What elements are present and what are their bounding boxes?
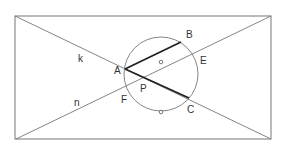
chord-ac [125, 69, 189, 98]
label-n: n [74, 97, 80, 108]
label-f: F [121, 94, 127, 105]
label-e: E [200, 55, 207, 66]
chord-ab [125, 42, 181, 69]
geometry-diagram: A B C E F P k n [0, 0, 295, 154]
label-c: C [187, 104, 194, 115]
inner-marker-icon [159, 60, 163, 64]
label-p: P [140, 83, 147, 94]
label-k: k [78, 53, 84, 64]
bottom-marker-icon [159, 110, 163, 114]
label-a: A [114, 65, 121, 76]
label-b: B [186, 29, 193, 40]
